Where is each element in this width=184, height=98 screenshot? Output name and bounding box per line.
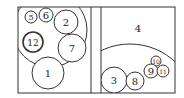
circle-label-10: 10 [152, 58, 160, 65]
region-label-4: 4 [135, 23, 141, 34]
circle-label-9: 9 [148, 66, 154, 77]
circle-label-5: 5 [28, 13, 33, 22]
circle-label-11: 11 [159, 68, 167, 75]
circle-packing-diagram: 562127138109114 [0, 0, 184, 98]
circle-label-3: 3 [111, 75, 117, 86]
circle-label-7: 7 [69, 43, 75, 54]
circle-label-1: 1 [45, 68, 51, 79]
circle-label-6: 6 [43, 10, 49, 21]
circle-label-2: 2 [63, 17, 69, 28]
diagram-svg: 562127138109114 [0, 0, 184, 98]
circle-label-12: 12 [27, 38, 38, 48]
circle-label-8: 8 [132, 76, 138, 87]
